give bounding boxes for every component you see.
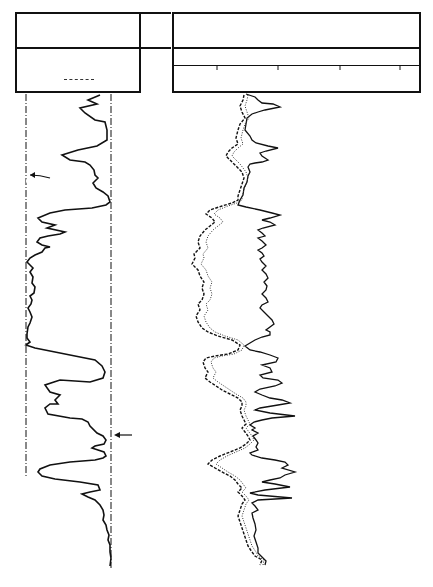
res-scale-ticks xyxy=(217,65,400,70)
resistivity-deep-curve xyxy=(238,94,295,565)
sand-line-callout xyxy=(26,178,38,184)
sp-curve xyxy=(26,95,111,566)
log-plot xyxy=(0,0,433,587)
shale-line-callout xyxy=(130,426,146,432)
resistivity-medium-curve xyxy=(192,95,262,565)
